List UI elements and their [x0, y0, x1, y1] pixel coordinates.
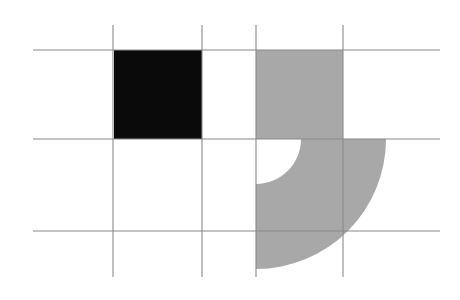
black-square [114, 50, 202, 139]
figure-canvas [0, 0, 460, 300]
geometric-composition-svg [0, 0, 460, 300]
canvas-background [0, 0, 460, 300]
gray-square [256, 50, 343, 139]
